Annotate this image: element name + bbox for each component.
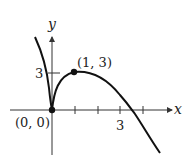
x-axis-label: x — [174, 101, 182, 117]
origin-point-marker — [49, 107, 55, 113]
function-graph: y x 3 3 (0, 0) (1, 3) — [0, 0, 189, 164]
x-tick-label-3: 3 — [116, 118, 124, 133]
y-axis-label: y — [47, 16, 57, 32]
max-point-label: (1, 3) — [77, 55, 112, 70]
y-tick-label-3: 3 — [35, 66, 43, 81]
origin-point-label: (0, 0) — [15, 115, 50, 130]
